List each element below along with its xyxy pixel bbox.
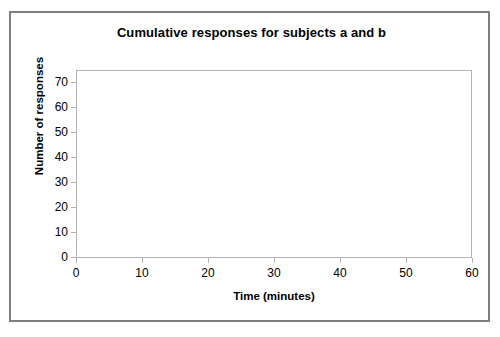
plot-area <box>76 70 472 258</box>
x-axis-tick-label: 40 <box>320 266 360 280</box>
chart-title: Cumulative responses for subjects a and … <box>11 25 492 40</box>
chart-figure: Cumulative responses for subjects a and … <box>11 13 492 324</box>
x-axis-tick-mark <box>76 258 77 263</box>
data-series-layer <box>77 71 471 257</box>
y-axis-tick-label: 70 <box>55 75 68 89</box>
y-axis-tick-label: 20 <box>55 200 68 214</box>
y-axis-ticks: 010203040506070 <box>11 70 76 258</box>
x-axis-tick-mark <box>142 258 143 263</box>
x-axis-tick-label: 50 <box>386 266 426 280</box>
y-axis-tick-label: 10 <box>55 225 68 239</box>
y-axis-tick-label: 40 <box>55 150 68 164</box>
x-axis-tick-mark <box>472 258 473 263</box>
x-axis-tick-mark <box>406 258 407 263</box>
screenshot-root: Cumulative responses for subjects a and … <box>0 0 500 337</box>
x-axis-tick-label: 60 <box>452 266 492 280</box>
y-axis-tick-label: 60 <box>55 100 68 114</box>
x-axis-tick-label: 20 <box>188 266 228 280</box>
y-axis-tick-label: 50 <box>55 125 68 139</box>
x-axis-tick-label: 10 <box>122 266 162 280</box>
y-axis-tick-label: 0 <box>61 250 68 264</box>
x-axis-tick-label: 0 <box>56 266 96 280</box>
y-axis-tick-label: 30 <box>55 175 68 189</box>
figure-frame: Cumulative responses for subjects a and … <box>9 11 490 322</box>
x-axis-label: Time (minutes) <box>76 290 472 302</box>
x-axis-tick-label: 30 <box>254 266 294 280</box>
x-axis-tick-mark <box>340 258 341 263</box>
x-axis-tick-mark <box>208 258 209 263</box>
x-axis-tick-mark <box>274 258 275 263</box>
